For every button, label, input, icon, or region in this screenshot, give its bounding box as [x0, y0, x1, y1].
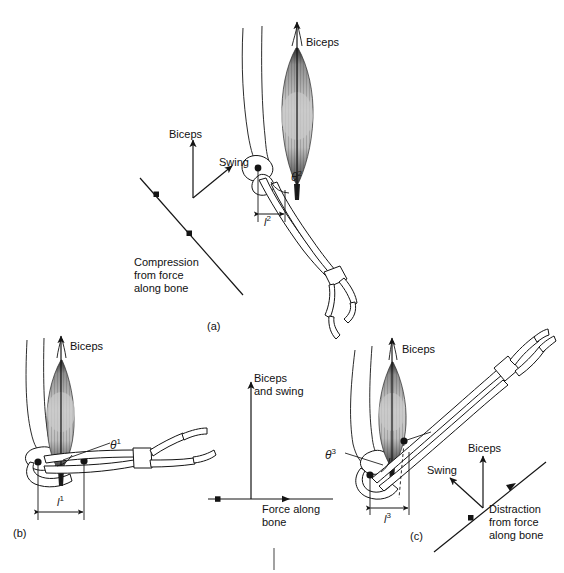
- vector-c-swing: [450, 478, 483, 508]
- label-c-theta-superscript: 3: [332, 447, 336, 456]
- label-b-force-line2: bone: [262, 516, 286, 529]
- digit-b-1b: [182, 428, 207, 440]
- label-a-biceps: Biceps: [169, 128, 202, 141]
- label-c-force-line3: along bone: [489, 529, 543, 542]
- label-c-vector-biceps: Biceps: [468, 442, 501, 455]
- marker-b-force-left: [215, 496, 221, 502]
- label-a-arm-biceps: Biceps: [306, 36, 339, 49]
- radius-a: [271, 182, 336, 276]
- label-a-moment-arm: l2: [264, 214, 271, 228]
- label-c-force-line1: Distraction: [489, 503, 541, 516]
- label-c-arm-biceps: Biceps: [402, 343, 435, 356]
- label-a-force-line3: along bone: [134, 282, 188, 295]
- label-c-vector-swing: Swing: [427, 464, 457, 477]
- humerus-outline-a-right: [262, 26, 269, 161]
- label-b-theta-superscript: 1: [117, 437, 121, 446]
- label-b-force-line1: Force along: [262, 503, 320, 516]
- label-c-theta: θ3: [325, 447, 336, 462]
- label-b-moment-arm: l1: [57, 494, 64, 508]
- biomechanics-figure: Biceps Swing Compression from force alon…: [0, 0, 564, 573]
- label-a-force-line1: Compression: [134, 256, 199, 269]
- label-a-theta: θ2: [291, 169, 302, 184]
- label-a-swing: Swing: [219, 156, 249, 169]
- label-a-moment-arm-superscript: 2: [266, 214, 270, 223]
- label-b-vector-line2: and swing: [254, 385, 304, 398]
- label-b-vector-line1: Biceps: [254, 372, 287, 385]
- humerus-outline-c-left: [351, 350, 366, 466]
- label-a-theta-superscript: 2: [298, 169, 302, 178]
- vector-a-swing: [193, 166, 232, 198]
- digit-b-1: [150, 433, 185, 456]
- label-c-force-line2: from force: [489, 516, 539, 529]
- humerus-outline-c-right: [370, 346, 378, 456]
- figure-canvas: [0, 0, 564, 573]
- label-c-moment-arm: l3: [384, 511, 391, 525]
- digit-a-2: [325, 284, 335, 318]
- panel-c-limb: [345, 329, 556, 515]
- marker-c-force-lower: [468, 515, 474, 521]
- digit-b-2b: [193, 450, 216, 463]
- digit-a-2b: [329, 316, 340, 339]
- marker-a-force-upper: [154, 192, 160, 198]
- panel-id-b: (b): [13, 527, 26, 539]
- marker-b-force-right: [282, 496, 290, 502]
- digit-b-2: [150, 458, 195, 467]
- humerus-outline-b-left: [26, 340, 44, 455]
- digit-a-1b: [344, 302, 356, 323]
- panel-b-limb: [25, 336, 216, 520]
- label-a-force-line2: from force: [134, 269, 184, 282]
- panel-id-c: (c): [410, 530, 423, 542]
- label-b-arm-biceps: Biceps: [70, 340, 103, 353]
- label-b-theta: θ1: [110, 437, 121, 452]
- panel-b-vector-diagram: [208, 382, 333, 502]
- humerus-outline-a-left: [242, 28, 258, 166]
- carpus-b: [133, 448, 152, 468]
- marker-a-force-lower: [187, 231, 193, 237]
- label-b-moment-arm-superscript: 1: [59, 494, 63, 503]
- panel-id-a: (a): [207, 320, 220, 332]
- label-c-moment-arm-superscript: 3: [386, 511, 390, 520]
